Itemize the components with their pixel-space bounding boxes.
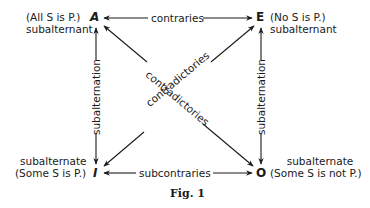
contraries-label: contraries	[151, 12, 204, 24]
square-of-opposition-diagram: subalternation subalternation contradict…	[0, 0, 370, 208]
i-proposition: (Some S is P.)	[15, 167, 86, 179]
e-proposition: (No S is P.)	[270, 11, 326, 23]
subalternation-right-label: subalternation	[255, 59, 267, 135]
i-role: subalternate	[20, 155, 82, 167]
subcontraries-label: subcontraries	[139, 167, 211, 179]
o-role: subalternate	[280, 155, 360, 167]
e-role: subalternant	[270, 23, 337, 35]
corner-o-letter: O	[256, 167, 266, 179]
subalternation-left-label: subalternation	[90, 59, 102, 135]
a-role: subalternant	[26, 23, 93, 35]
corner-i-letter: I	[93, 167, 97, 179]
contradictories-ao-line-top	[104, 26, 147, 62]
a-proposition: (All S is P.)	[26, 11, 80, 23]
corner-a-letter: A	[90, 11, 99, 23]
contradictories-ei-line-bottom	[104, 132, 144, 166]
o-proposition: (Some S is not P.)	[270, 167, 362, 179]
corner-e-letter: E	[256, 11, 264, 23]
figure-caption: Fig. 1	[170, 188, 205, 200]
contradictories-ei-line-top	[211, 26, 254, 62]
contradictories-ao-line-bottom	[203, 124, 253, 166]
